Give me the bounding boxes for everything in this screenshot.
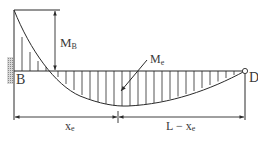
label-xe: xe [65, 119, 75, 133]
fixed-support-hatch [7, 57, 13, 84]
pin-support-d [242, 68, 247, 73]
label-b: B [16, 72, 25, 87]
label-me: Me [150, 52, 165, 67]
moment-curve [14, 10, 245, 106]
label-mb: MB [60, 35, 77, 51]
label-l-minus-xe: L − xe [166, 119, 196, 133]
bending-moment-diagram: B D MB Me xe L − xe [0, 0, 258, 141]
me-leader-line [121, 60, 147, 91]
label-d: D [249, 70, 258, 85]
